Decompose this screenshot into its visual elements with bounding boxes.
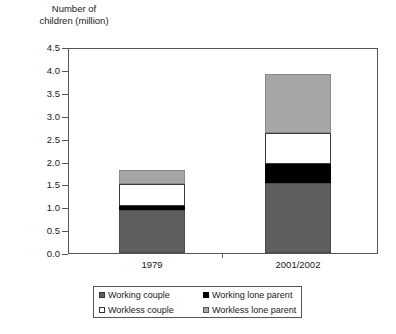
legend-label: Workless couple — [108, 305, 174, 315]
legend-label: Working lone parent — [212, 290, 292, 300]
legend-swatch-icon — [203, 307, 209, 313]
segment-workless-lone-parent[interactable] — [119, 170, 185, 184]
segment-working-couple[interactable] — [119, 210, 185, 253]
segment-workless-couple[interactable] — [265, 133, 331, 164]
legend-swatch-icon — [203, 292, 209, 298]
y-tick-label: 2.0 — [20, 158, 60, 168]
legend-label: Working couple — [108, 290, 170, 300]
plot-area — [68, 48, 378, 254]
y-tick-label: 2.5 — [20, 135, 60, 145]
y-tick-label: 1.5 — [20, 180, 60, 190]
legend-item-working-lone-parent[interactable]: Working lone parent — [198, 287, 303, 302]
y-axis-title: Number of children (million) — [14, 3, 134, 27]
legend-swatch-icon — [99, 307, 105, 313]
legend-swatch-icon — [99, 292, 105, 298]
legend-item-working-couple[interactable]: Working couple — [94, 287, 198, 302]
y-tick-label: 3.5 — [20, 89, 60, 99]
segment-workless-lone-parent[interactable] — [265, 74, 331, 133]
stacked-bar-chart-figure: Number of children (million) 4.5 4.0 3.5… — [0, 0, 396, 334]
y-tick-mark — [62, 254, 68, 255]
y-tick-label: 3.0 — [20, 112, 60, 122]
y-tick-label: 0.5 — [20, 226, 60, 236]
segment-workless-couple[interactable] — [119, 184, 185, 206]
legend-item-workless-couple[interactable]: Workless couple — [94, 302, 198, 317]
segment-working-lone-parent[interactable] — [265, 164, 331, 183]
legend-item-workless-lone-parent[interactable]: Workless lone parent — [198, 302, 303, 317]
y-tick-label: 1.0 — [20, 203, 60, 213]
y-tick-label: 4.0 — [20, 66, 60, 76]
x-tick-label-2001-2002: 2001/2002 — [238, 259, 358, 270]
chart-legend: Working couple Working lone parent Workl… — [93, 286, 302, 318]
y-tick-label: 4.5 — [20, 43, 60, 53]
x-tick-label-1979: 1979 — [92, 259, 212, 270]
segment-working-couple[interactable] — [265, 183, 331, 253]
segment-working-lone-parent[interactable] — [119, 206, 185, 210]
legend-label: Workless lone parent — [212, 305, 296, 315]
x-tick-mark — [222, 254, 223, 258]
y-tick-label: 0.0 — [20, 249, 60, 259]
